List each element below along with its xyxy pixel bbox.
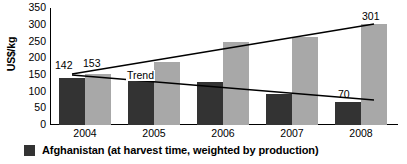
x-tick-2008: 2008 bbox=[341, 127, 381, 139]
y-axis-ticks: 350 300 250 200 150 100 50 0 bbox=[18, 0, 46, 124]
x-tick-2007: 2007 bbox=[272, 127, 312, 139]
y-tick-0: 0 bbox=[18, 119, 46, 129]
chart-legend: Afghanistan (at harvest time, weighted b… bbox=[24, 144, 318, 156]
y-axis-label: US$/kg bbox=[5, 21, 17, 87]
x-tick-2004: 2004 bbox=[65, 127, 105, 139]
y-tick-100: 100 bbox=[18, 86, 46, 96]
y-tick-150: 150 bbox=[18, 69, 46, 79]
legend-swatch-afghanistan bbox=[24, 145, 35, 156]
legend-label-afghanistan: Afghanistan (at harvest time, weighted b… bbox=[42, 144, 318, 156]
y-tick-250: 250 bbox=[18, 36, 46, 46]
y-tick-350: 350 bbox=[18, 2, 46, 12]
chart-figure: US$/kg 350 300 250 200 150 100 50 0 bbox=[0, 0, 407, 164]
y-tick-300: 300 bbox=[18, 19, 46, 29]
x-tick-2005: 2005 bbox=[134, 127, 174, 139]
x-tick-2006: 2006 bbox=[203, 127, 243, 139]
y-tick-200: 200 bbox=[18, 52, 46, 62]
y-tick-50: 50 bbox=[18, 102, 46, 112]
chart-plot-container: US$/kg 350 300 250 200 150 100 50 0 bbox=[0, 0, 407, 140]
x-axis-ticks: 2004 2005 2006 2007 2008 bbox=[50, 0, 398, 140]
